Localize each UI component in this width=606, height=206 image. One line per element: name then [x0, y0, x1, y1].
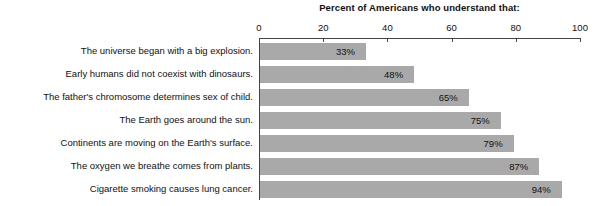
category-label: The universe began with a big explosion.: [81, 45, 253, 56]
bar-value-label: 75%: [471, 115, 490, 126]
bar-value-label: 65%: [439, 92, 458, 103]
x-tick-label: 40: [382, 22, 393, 33]
x-axis-line: 020406080100: [259, 38, 580, 39]
bar: [260, 135, 514, 152]
x-tick-label: 60: [446, 22, 457, 33]
bar-value-label: 79%: [484, 138, 503, 149]
x-tick-mark: [323, 38, 324, 42]
bar-chart: Percent of Americans who understand that…: [0, 0, 606, 206]
category-label: The father's chromosome determines sex o…: [43, 91, 253, 102]
category-label: The oxygen we breathe comes from plants.: [71, 160, 253, 171]
bar-value-label: 33%: [336, 46, 355, 57]
bar-row: Early humans did not coexist with dinosa…: [0, 66, 606, 83]
category-label: Cigarette smoking causes lung cancer.: [90, 183, 253, 194]
bar: [260, 181, 562, 198]
bar-row: Cigarette smoking causes lung cancer.94%: [0, 181, 606, 198]
bar: [260, 158, 539, 175]
bar-row: The universe began with a big explosion.…: [0, 43, 606, 60]
category-label: The Earth goes around the sun.: [119, 114, 253, 125]
x-tick-label: 80: [511, 22, 522, 33]
bar-row: Continents are moving on the Earth's sur…: [0, 135, 606, 152]
x-tick-label: 100: [572, 22, 588, 33]
bar: [260, 89, 469, 106]
x-tick-label: 20: [318, 22, 329, 33]
bar-value-label: 94%: [532, 184, 551, 195]
bar: [260, 112, 501, 129]
bar-value-label: 48%: [384, 69, 403, 80]
x-tick-mark: [259, 38, 260, 42]
bar-row: The Earth goes around the sun.75%: [0, 112, 606, 129]
x-tick-mark: [516, 38, 517, 42]
x-tick-mark: [387, 38, 388, 42]
x-tick-mark: [452, 38, 453, 42]
chart-title: Percent of Americans who understand that…: [259, 2, 580, 13]
x-tick-mark: [580, 38, 581, 42]
category-label: Early humans did not coexist with dinosa…: [66, 68, 253, 79]
plot-area: The universe began with a big explosion.…: [0, 43, 606, 203]
x-tick-label: 0: [256, 22, 261, 33]
bar-value-label: 87%: [509, 161, 528, 172]
x-axis-tick-labels: 020406080100: [259, 22, 580, 36]
category-label: Continents are moving on the Earth's sur…: [61, 137, 253, 148]
bar-row: The oxygen we breathe comes from plants.…: [0, 158, 606, 175]
bar-row: The father's chromosome determines sex o…: [0, 89, 606, 106]
